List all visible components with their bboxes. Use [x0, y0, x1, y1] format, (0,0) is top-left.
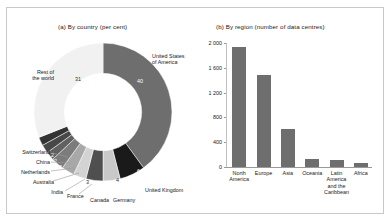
- panel-a-title: (a) By country (per cent): [58, 23, 127, 30]
- slice-label-rest-line2: the world: [20, 75, 54, 81]
- bar[interactable]: [257, 75, 271, 167]
- y-tick-mark: [224, 117, 226, 118]
- y-tick-label: 1 600: [198, 65, 222, 71]
- y-tick-mark: [224, 43, 226, 44]
- y-tick-mark: [224, 142, 226, 143]
- slice-label-rest-of-world: Rest of the world: [20, 69, 54, 82]
- bar[interactable]: [354, 163, 368, 167]
- x-axis: [226, 167, 372, 168]
- bar[interactable]: [281, 129, 295, 167]
- bar[interactable]: [232, 47, 246, 167]
- x-tick-label-line: Africa: [345, 170, 377, 176]
- x-tick-label-line: America: [223, 176, 255, 182]
- bar[interactable]: [305, 159, 319, 167]
- slice-label-australia: Australia: [16, 179, 54, 185]
- panel-by-country: (a) By country (per cent) 40 6 4 4 3 3 3…: [6, 7, 196, 214]
- y-tick-mark: [224, 93, 226, 94]
- y-tick-label: 1 200: [198, 90, 222, 96]
- slice-label-france: France: [67, 193, 84, 199]
- panel-b-title: (b) By region (number of data centres): [216, 23, 325, 30]
- slice-label-usa: United States of America: [152, 53, 184, 66]
- x-tick-label-line: Caribbean: [320, 189, 352, 195]
- slice-label-uk: United Kingdom: [145, 187, 183, 193]
- y-tick-label: 800: [198, 114, 222, 120]
- figure-container: (a) By country (per cent) 40 6 4 4 3 3 3…: [0, 0, 391, 222]
- bar-series: [227, 43, 373, 167]
- slice-label-canada: Canada: [90, 197, 109, 203]
- slice-label-switzerland: Switzerland: [6, 149, 50, 155]
- donut-slice[interactable]: [34, 43, 103, 137]
- x-tick-label: Africa: [345, 170, 377, 176]
- y-tick-mark: [224, 68, 226, 69]
- y-tick-label: 2 000: [198, 40, 222, 46]
- slice-label-germany: Germany: [113, 197, 135, 203]
- y-tick-label: 0: [198, 164, 222, 170]
- y-tick-label: 400: [198, 139, 222, 145]
- panel-by-region: (b) By region (number of data centres) 0…: [196, 7, 384, 214]
- bar[interactable]: [330, 160, 344, 167]
- slice-label-usa-line2: of America: [152, 59, 184, 65]
- slice-label-india: India: [46, 189, 63, 195]
- slice-label-china: China: [18, 159, 50, 165]
- y-tick-mark: [224, 167, 226, 168]
- slice-label-netherlands: Netherlands: [6, 169, 50, 175]
